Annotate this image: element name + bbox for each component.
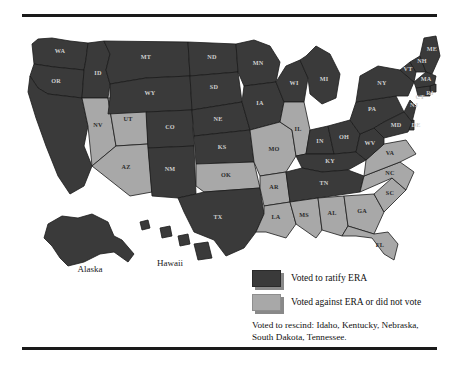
label-OK: OK: [221, 171, 231, 178]
label-MS: MS: [299, 211, 309, 218]
label-PA: PA: [368, 105, 377, 112]
label-NJ: NJ: [410, 101, 418, 108]
state-HI-4[interactable]: [194, 242, 212, 260]
label-LA: LA: [272, 213, 281, 220]
us-map: WA OR ID MT WY NV UT AZ CO NM ND SD NE K…: [18, 26, 442, 276]
label-WV: WV: [364, 139, 375, 146]
label-MD: MD: [391, 121, 402, 128]
label-VA: VA: [386, 149, 395, 156]
label-ID: ID: [94, 69, 102, 76]
label-RI: RI: [426, 89, 434, 96]
label-AL: AL: [328, 209, 337, 216]
label-MN: MN: [253, 59, 264, 66]
label-AZ: AZ: [122, 163, 131, 170]
label-UT: UT: [124, 115, 134, 122]
bottom-rule: [22, 347, 437, 350]
label-NE: NE: [214, 115, 223, 122]
label-NV: NV: [93, 121, 103, 128]
label-IA: IA: [256, 99, 264, 106]
label-KS: KS: [218, 143, 227, 150]
label-NH: NH: [417, 57, 427, 64]
label-SC: SC: [386, 189, 394, 196]
label-MA: MA: [421, 75, 432, 82]
legend-swatch-against: [252, 294, 281, 311]
label-OH: OH: [339, 133, 349, 140]
map-legend: Voted to ratify ERA Voted against ERA or…: [252, 270, 442, 343]
legend-item-against[interactable]: Voted against ERA or did not vote: [252, 294, 442, 311]
label-WI: WI: [290, 79, 299, 86]
inset-label-alaska: Alaska: [78, 264, 103, 274]
label-ME: ME: [427, 45, 437, 52]
label-WA: WA: [55, 47, 66, 54]
label-MI: MI: [320, 75, 329, 82]
state-HI-3[interactable]: [178, 234, 190, 246]
label-IL: IL: [295, 125, 302, 132]
label-CO: CO: [165, 123, 175, 130]
label-TN: TN: [320, 179, 329, 186]
label-SD: SD: [210, 83, 219, 90]
label-KY: KY: [325, 157, 335, 164]
label-MT: MT: [141, 53, 152, 60]
legend-label-ratify: Voted to ratify ERA: [291, 273, 367, 284]
state-HI-2[interactable]: [160, 226, 172, 238]
label-WY: WY: [144, 89, 155, 96]
label-CT: CT: [416, 93, 426, 100]
label-TX: TX: [214, 213, 223, 220]
label-DE: DE: [412, 121, 421, 128]
legend-rescind-note: Voted to rescind: Idaho, Kentucky, Nebra…: [252, 320, 438, 343]
state-AK[interactable]: [44, 214, 134, 266]
label-NC: NC: [385, 169, 394, 176]
inset-label-hawaii: Hawaii: [157, 258, 183, 268]
map-svg: WA OR ID MT WY NV UT AZ CO NM ND SD NE K…: [18, 26, 442, 276]
label-MO: MO: [268, 145, 279, 152]
label-AR: AR: [269, 183, 279, 190]
legend-swatch-ratify: [252, 270, 281, 287]
label-VT: VT: [404, 65, 414, 72]
label-GA: GA: [357, 207, 367, 214]
label-IN: IN: [316, 137, 324, 144]
label-NY: NY: [377, 79, 387, 86]
label-ND: ND: [207, 53, 217, 60]
top-rule: [22, 14, 437, 17]
state-HI[interactable]: [140, 220, 150, 230]
legend-label-against: Voted against ERA or did not vote: [291, 297, 421, 308]
label-NM: NM: [165, 165, 176, 172]
label-FL: FL: [376, 241, 384, 248]
legend-item-ratify[interactable]: Voted to ratify ERA: [252, 270, 442, 287]
state-TX[interactable]: [178, 188, 264, 256]
label-OR: OR: [51, 77, 61, 84]
